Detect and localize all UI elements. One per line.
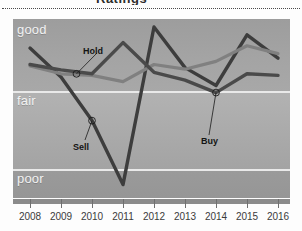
x-axis-tick-labels: 200820092010201120122013201420152016 [13,211,290,227]
x-tick-2015 [247,199,248,208]
x-tick-2014 [216,199,217,208]
x-tick-label-2013: 2013 [174,211,196,222]
plot-area: good fair poor Hold Sell Buy [13,19,290,198]
leader-line-buy [209,93,216,135]
x-tick-label-2016: 2016 [267,211,289,222]
x-tick-label-2008: 2008 [19,211,41,222]
x-tick-label-2011: 2011 [112,211,134,222]
x-tick-label-2010: 2010 [81,211,103,222]
chart-figure: Ratings good fair poor Hold Sell Buy 200… [0,0,302,231]
x-tick-2013 [185,199,186,208]
x-tick-label-2012: 2012 [143,211,165,222]
annotation-sell: Sell [73,142,89,152]
x-tick-2012 [154,199,155,208]
annotation-hold: Hold [83,46,103,56]
chart-title: Ratings [96,0,206,5]
top-dotted-rule [2,8,300,9]
x-tick-label-2014: 2014 [205,211,227,222]
x-tick-2009 [61,199,62,208]
annotation-buy: Buy [201,136,218,146]
x-tick-label-2009: 2009 [50,211,72,222]
x-tick-2011 [123,199,124,208]
x-tick-2010 [92,199,93,208]
x-tick-2016 [278,199,279,208]
x-tick-2008 [30,199,31,208]
x-axis-bar [13,199,290,204]
x-tick-label-2015: 2015 [236,211,258,222]
series-lines [13,19,290,198]
